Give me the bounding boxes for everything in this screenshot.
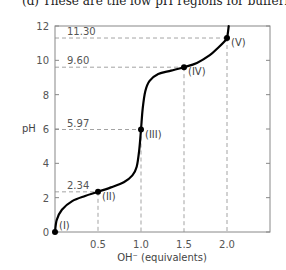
y-tick-label: 4 bbox=[43, 158, 49, 169]
reference-value-label: 11.30 bbox=[67, 26, 96, 37]
y-tick-label: 12 bbox=[36, 21, 49, 32]
y-tick-label: 0 bbox=[43, 227, 49, 238]
data-point-marker bbox=[95, 189, 101, 195]
reference-value-label: 9.60 bbox=[67, 55, 89, 66]
data-point-marker bbox=[52, 229, 58, 235]
data-point-label: (IV) bbox=[188, 66, 206, 77]
reference-value-label: 5.97 bbox=[67, 118, 89, 129]
x-tick-label: 0.5 bbox=[90, 239, 106, 250]
data-point-label: (II) bbox=[102, 191, 116, 202]
data-point-marker bbox=[138, 127, 144, 133]
titration-chart: 2.345.979.6011.30 0246810120.51.01.52.0 … bbox=[0, 0, 286, 270]
data-point-marker bbox=[181, 64, 187, 70]
y-tick-label: 6 bbox=[43, 124, 49, 135]
data-point-marker bbox=[224, 35, 230, 41]
y-tick-label: 8 bbox=[43, 90, 49, 101]
x-tick-label: 1.0 bbox=[133, 239, 149, 250]
data-point-label: (V) bbox=[231, 37, 246, 48]
data-point-label: (III) bbox=[145, 129, 162, 140]
y-tick-label: 10 bbox=[36, 55, 49, 66]
x-tick-label: 2.0 bbox=[219, 239, 235, 250]
reference-value-label: 2.34 bbox=[67, 180, 89, 191]
data-point-label: (I) bbox=[59, 220, 70, 231]
y-axis-label: pH bbox=[22, 123, 36, 134]
x-axis-label: OH⁻ (equivalents) bbox=[117, 252, 207, 263]
x-tick-label: 1.5 bbox=[176, 239, 192, 250]
y-tick-label: 2 bbox=[43, 193, 49, 204]
